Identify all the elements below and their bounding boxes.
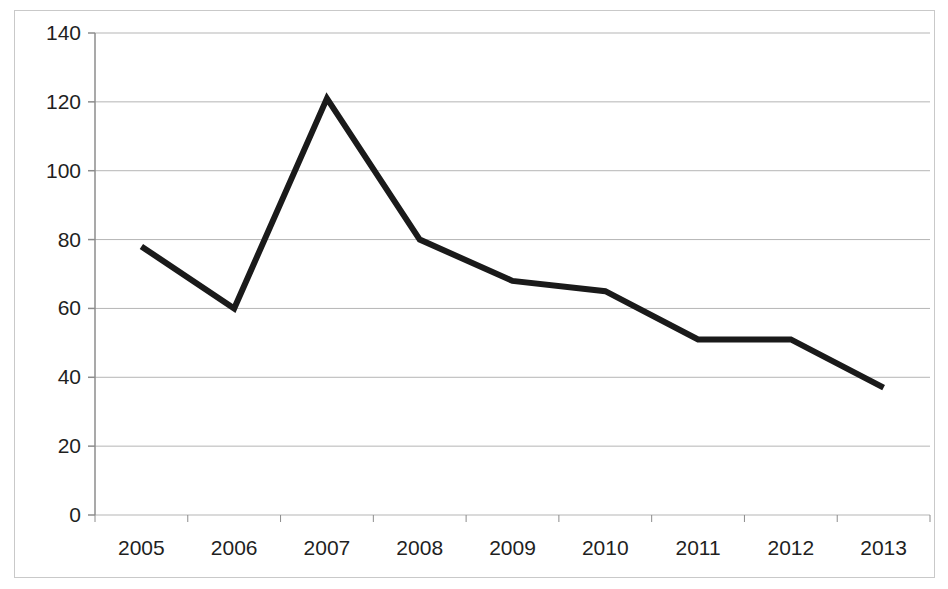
x-axis-tick-label: 2011 (652, 537, 745, 558)
x-axis-tick-label: 2010 (559, 537, 652, 558)
x-axis-tick-label: 2005 (95, 537, 188, 558)
plot-area (0, 0, 948, 589)
x-axis-tick-label: 2008 (373, 537, 466, 558)
y-axis-tick-label: 100 (46, 160, 81, 181)
y-axis-tick-label: 140 (46, 22, 81, 43)
x-axis-tick-label: 2007 (281, 537, 374, 558)
x-axis-tick-label: 2012 (744, 537, 837, 558)
line-chart: 020406080100120140 200520062007200820092… (0, 0, 948, 589)
y-axis-tick-label: 0 (69, 504, 81, 525)
data-series-line (141, 98, 883, 387)
y-axis-tick-label: 40 (58, 366, 81, 387)
y-axis-tick-label: 20 (58, 435, 81, 456)
gridlines (95, 33, 930, 515)
x-axis-tick-label: 2013 (837, 537, 930, 558)
y-axis-tick-label: 80 (58, 229, 81, 250)
y-axis-tick-label: 60 (58, 297, 81, 318)
x-axis-tick-label: 2006 (188, 537, 281, 558)
x-axis-tick-label: 2009 (466, 537, 559, 558)
y-axis-tick-label: 120 (46, 91, 81, 112)
